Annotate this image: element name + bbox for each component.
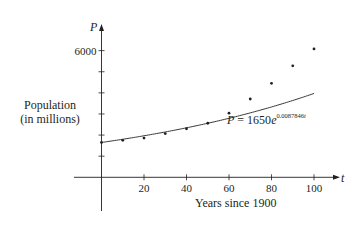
x-tick-label: 60: [224, 182, 236, 194]
data-point: [270, 82, 273, 85]
equation-coefficient: = 1650: [234, 113, 271, 127]
y-axis-title-line2: (in millions): [10, 112, 90, 126]
x-axis-title: Years since 1900: [195, 196, 276, 211]
x-axis-variable-label: t: [341, 171, 345, 185]
y-axis-title-line1: Population: [10, 98, 90, 112]
equation-exponent: 0.0087846t: [276, 112, 305, 119]
data-point: [313, 48, 316, 51]
data-point: [291, 64, 294, 67]
data-point: [206, 122, 209, 125]
y-axis-arrow-icon: [99, 24, 104, 31]
data-point: [164, 132, 167, 135]
data-point: [143, 137, 146, 140]
data-point: [121, 139, 124, 142]
y-tick-label: 6000: [75, 45, 98, 57]
x-tick-label: 100: [306, 182, 323, 194]
equation-exponent-variable: t: [304, 112, 306, 119]
data-point: [249, 98, 252, 101]
y-axis-variable-label: P: [89, 20, 98, 34]
data-points: [100, 48, 315, 144]
x-tick-label: 80: [266, 182, 278, 194]
x-tick-label: 20: [139, 182, 151, 194]
data-point: [100, 141, 103, 144]
model-equation-annotation: P = 1650e0.0087846t: [227, 113, 306, 128]
data-point: [185, 127, 188, 130]
x-axis-arrow-icon: [333, 175, 340, 180]
x-tick-label: 40: [181, 182, 193, 194]
y-axis-title: Population (in millions): [10, 98, 90, 126]
equation-exponent-value: 0.0087846: [276, 112, 304, 119]
